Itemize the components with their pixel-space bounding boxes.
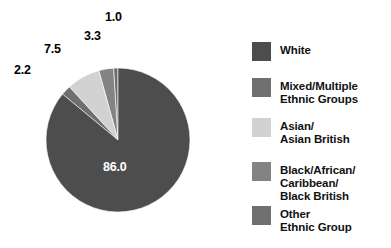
pie-slices-group (46, 68, 190, 212)
legend-color-swatch (252, 118, 271, 137)
slice-value-label: 2.2 (14, 63, 31, 77)
legend-color-swatch (252, 42, 271, 61)
slice-value-label: 3.3 (84, 29, 101, 43)
pie-plot-area: 86.02.27.53.31.0 (0, 0, 248, 248)
legend-color-swatch (252, 78, 271, 97)
legend-item-label: Black/African/ Caribbean/ Black British (280, 162, 355, 204)
legend-color-swatch (252, 162, 271, 181)
legend-item[interactable]: Asian/ Asian British (252, 118, 350, 146)
legend-item[interactable]: Mixed/Multiple Ethnic Groups (252, 78, 358, 106)
slice-value-label: 86.0 (103, 160, 127, 174)
slice-value-label: 1.0 (105, 10, 122, 24)
pie-chart-figure: 86.02.27.53.31.0 WhiteMixed/Multiple Eth… (0, 0, 391, 248)
legend-item[interactable]: White (252, 42, 311, 61)
legend-item[interactable]: Other Ethnic Group (252, 206, 352, 234)
legend-item[interactable]: Black/African/ Caribbean/ Black British (252, 162, 355, 204)
legend-item-label: Mixed/Multiple Ethnic Groups (280, 78, 358, 106)
legend-item-label: Other Ethnic Group (280, 206, 352, 234)
pie-svg (0, 0, 248, 248)
legend-item-label: Asian/ Asian British (280, 118, 350, 146)
chart-legend: WhiteMixed/Multiple Ethnic GroupsAsian/ … (252, 0, 391, 248)
slice-value-label: 7.5 (44, 42, 61, 56)
legend-color-swatch (252, 206, 271, 225)
legend-item-label: White (280, 42, 311, 57)
